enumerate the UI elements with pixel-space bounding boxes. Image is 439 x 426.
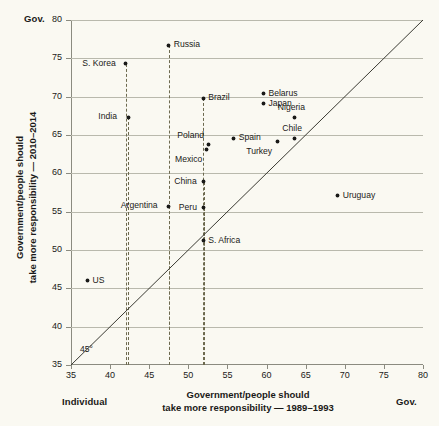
x-axis-tick-label: 40 bbox=[97, 370, 123, 380]
x-axis-tick-label: 50 bbox=[175, 370, 201, 380]
x-axis-tick bbox=[71, 365, 72, 369]
y-axis-tick-label: 45 bbox=[36, 282, 62, 292]
x-axis-tick-label: 55 bbox=[214, 370, 240, 380]
x-axis-tick bbox=[110, 365, 111, 369]
chart-canvas: Gov. Individual Gov. Government/people s… bbox=[0, 0, 439, 426]
data-label-poland: Poland bbox=[177, 130, 204, 140]
data-point-brazil[interactable] bbox=[202, 97, 205, 100]
x-axis-tick bbox=[188, 365, 189, 369]
y-axis-tick-label: 60 bbox=[36, 167, 62, 177]
y-axis-title: Government/people should take more respo… bbox=[14, 68, 39, 328]
data-label-india: India bbox=[98, 111, 117, 121]
data-label-uruguay: Uruguay bbox=[343, 190, 375, 200]
y-axis-tick-label: 80 bbox=[36, 14, 62, 24]
x-axis-tick-label: 65 bbox=[293, 370, 319, 380]
x-axis-tick-label: 75 bbox=[371, 370, 397, 380]
data-label-brazil: Brazil bbox=[208, 92, 230, 102]
x-axis-tick-label: 35 bbox=[58, 370, 84, 380]
y-axis-title-line1: Government/people should bbox=[14, 68, 27, 328]
data-label-s-africa: S. Africa bbox=[208, 235, 240, 245]
data-label-s-korea: S. Korea bbox=[82, 58, 115, 68]
x-axis-tick bbox=[149, 365, 150, 369]
data-label-turkey: Turkey bbox=[246, 146, 272, 156]
data-point-india[interactable] bbox=[127, 116, 130, 119]
x-axis-high-caption: Gov. bbox=[396, 396, 417, 407]
data-point-poland[interactable] bbox=[207, 143, 210, 146]
data-point-spain[interactable] bbox=[232, 137, 235, 140]
data-label-us: US bbox=[92, 275, 104, 285]
x-axis-tick bbox=[345, 365, 346, 369]
x-axis-low-caption: Individual bbox=[62, 396, 107, 407]
data-label-peru: Peru bbox=[179, 202, 197, 212]
data-label-russia: Russia bbox=[174, 39, 200, 49]
x-axis-tick bbox=[384, 365, 385, 369]
y-axis-tick-label: 75 bbox=[36, 52, 62, 62]
x-axis-tick bbox=[267, 365, 268, 369]
data-label-china: China bbox=[174, 176, 196, 186]
x-axis-title: Government/people should take more respo… bbox=[123, 389, 373, 414]
x-axis-tick-label: 80 bbox=[410, 370, 436, 380]
x-axis-tick bbox=[227, 365, 228, 369]
y-axis-tick-label: 35 bbox=[36, 359, 62, 369]
x-axis-tick-label: 60 bbox=[254, 370, 280, 380]
data-label-mexico: Mexico bbox=[175, 154, 202, 164]
x-axis-tick bbox=[423, 365, 424, 369]
data-point-japan[interactable] bbox=[262, 102, 265, 105]
y-axis-tick-label: 70 bbox=[36, 91, 62, 101]
plot-area: 35404550556065707580 3540455055606570758… bbox=[71, 20, 423, 365]
data-label-chile: Chile bbox=[282, 123, 302, 133]
data-label-belarus: Belarus bbox=[268, 88, 297, 98]
data-point-chile[interactable] bbox=[293, 137, 296, 140]
x-axis-title-line2: take more responsibility — 1989–1993 bbox=[123, 402, 373, 415]
x-axis-tick-label: 70 bbox=[332, 370, 358, 380]
x-axis-title-line1: Government/people should bbox=[123, 389, 373, 402]
data-point-belarus[interactable] bbox=[262, 92, 265, 95]
data-label-argentina: Argentina bbox=[121, 200, 158, 210]
reference-line-label: 45° bbox=[80, 344, 93, 354]
y-axis-tick-label: 65 bbox=[36, 129, 62, 139]
y-axis-tick-label: 55 bbox=[36, 206, 62, 216]
y-axis-tick-label: 40 bbox=[36, 321, 62, 331]
data-point-mexico[interactable] bbox=[205, 148, 208, 151]
data-label-spain: Spain bbox=[239, 132, 261, 142]
x-axis-tick-label: 45 bbox=[136, 370, 162, 380]
x-axis-tick bbox=[306, 365, 307, 369]
y-axis-tick-label: 50 bbox=[36, 244, 62, 254]
data-label-nigeria: Nigeria bbox=[278, 102, 305, 112]
